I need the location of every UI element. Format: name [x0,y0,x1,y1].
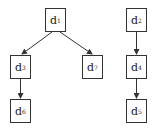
node-d2: d2 [126,8,147,32]
edge-d1-d3 [22,32,52,54]
diagram-canvas: d1 d2 d3 d7 d4 d6 d5 [0,0,159,131]
node-subscript: 7 [94,64,98,71]
node-letter: d [131,14,138,27]
node-d3: d3 [10,55,31,79]
node-subscript: 2 [138,17,142,24]
edge-d1-d7 [60,32,92,54]
node-subscript: 5 [138,108,142,115]
node-d7: d7 [82,55,103,79]
node-d5: d5 [126,99,147,123]
node-d1: d1 [45,8,66,32]
node-letter: d [50,14,57,27]
node-letter: d [131,61,138,74]
node-letter: d [15,61,22,74]
node-subscript: 3 [22,64,26,71]
node-subscript: 6 [22,108,26,115]
node-d4: d4 [126,55,147,79]
node-letter: d [15,105,22,118]
node-d6: d6 [10,99,31,123]
node-letter: d [131,105,138,118]
node-letter: d [87,61,94,74]
node-subscript: 4 [138,64,142,71]
node-subscript: 1 [57,17,61,24]
